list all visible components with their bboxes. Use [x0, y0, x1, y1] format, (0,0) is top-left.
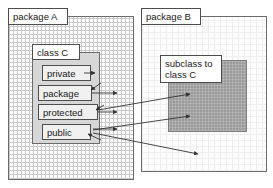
package-a-label-text: package A [13, 12, 57, 22]
member-private-label: private [47, 68, 76, 79]
member-package: package [38, 85, 92, 101]
member-public-label: public [47, 127, 72, 138]
member-public: public [42, 124, 91, 140]
class-c-label-text: class C [37, 47, 68, 58]
subclass-label-line-2: class C [165, 69, 217, 80]
subclass-label: subclass to class C [160, 55, 222, 83]
package-b-label: package B [141, 8, 201, 25]
package-b-label-text: package B [146, 12, 191, 22]
member-protected: protected [38, 104, 98, 120]
package-a-label: package A [8, 8, 68, 25]
member-protected-label: protected [43, 107, 83, 118]
uml-visibility-diagram: package A package B class C private pack… [0, 0, 273, 188]
subclass-label-line-1: subclass to [165, 58, 217, 69]
class-c-label: class C [32, 44, 80, 60]
member-private: private [42, 65, 91, 81]
member-package-label: package [43, 88, 79, 99]
